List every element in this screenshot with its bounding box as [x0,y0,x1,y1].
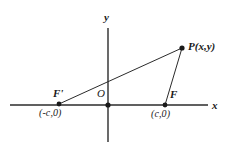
x-axis-label: x [212,100,218,111]
point-f-label: F [170,89,177,100]
math-figure: y x O F' (-c,0) F (c,0) P(x,y) [0,0,234,154]
point-p-label: P(x,y) [188,41,215,52]
point-fprime-label: F' [53,88,63,99]
y-axis-label: y [104,12,109,23]
origin-label: O [97,88,105,99]
figure-canvas [0,0,234,154]
point-fprime-coordinate-label: (-c,0) [39,108,62,118]
point-f-dot [163,103,168,108]
segment-fprime-p [59,48,182,104]
point-origin-dot [105,102,110,107]
point-fprime-dot [57,102,62,107]
point-p-dot [179,45,184,50]
point-f-coordinate-label: (c,0) [151,109,170,119]
